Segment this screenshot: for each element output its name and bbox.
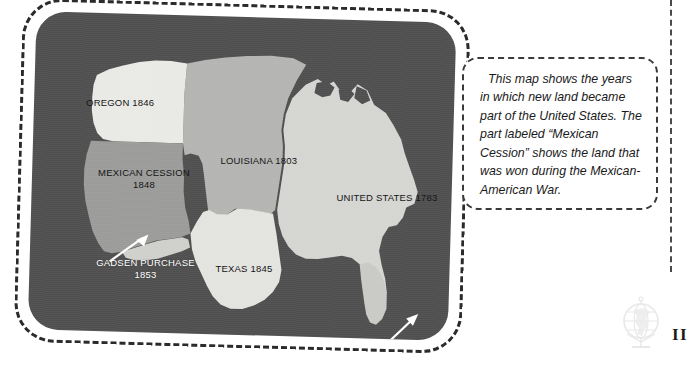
map-label-mexican-cession-name: MEXICAN CESSION — [98, 167, 190, 178]
map-label-oregon: OREGON 1846 — [86, 97, 154, 109]
map-annotation-callout: This map shows the years in which new la… — [462, 57, 658, 210]
map-label-united-states: UNITED STATES 1783 — [337, 192, 438, 204]
map-label-mexican-cession: MEXICAN CESSION 1848 — [89, 167, 199, 191]
map-label-gadsden-purchase-name: GADSEN PURCHASE — [96, 257, 195, 268]
map-annotation-callout-text: This map shows the years in which new la… — [480, 70, 644, 199]
map-label-gadsden-purchase-year: 1853 — [134, 269, 156, 280]
map-figure: OREGON 1846 LOUISIANA 1803 MEXICAN CESSI… — [13, 0, 473, 360]
map-label-mexican-cession-year: 1848 — [133, 179, 155, 190]
map-label-gadsden-purchase: GADSEN PURCHASE 1853 — [85, 257, 205, 281]
globe-icon — [617, 296, 665, 352]
map-label-louisiana: LOUISIANA 1803 — [220, 155, 297, 167]
map-label-texas: TEXAS 1845 — [215, 263, 272, 275]
map-plate: OREGON 1846 LOUISIANA 1803 MEXICAN CESSI… — [28, 11, 457, 341]
page-number: II — [672, 325, 688, 345]
page-margin-rule — [670, 0, 672, 272]
